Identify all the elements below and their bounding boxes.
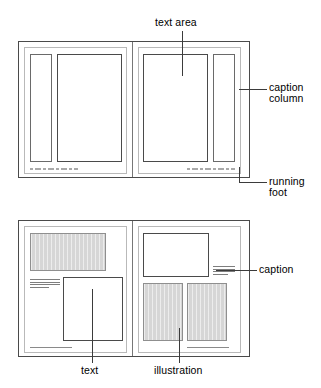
bottom-spread-gutter bbox=[132, 221, 133, 356]
bottom-left-caption bbox=[30, 279, 60, 289]
label-illustration: illustration bbox=[154, 365, 202, 377]
bottom-right-caption bbox=[213, 266, 235, 276]
label-text-area: text area bbox=[155, 17, 197, 29]
label-caption: caption bbox=[259, 264, 294, 276]
top-right-running-foot bbox=[187, 168, 235, 170]
top-spread-gutter bbox=[132, 42, 133, 177]
leader-caption bbox=[216, 270, 257, 271]
label-running-foot-line2: foot bbox=[269, 187, 287, 199]
bottom-left-illustration bbox=[30, 233, 106, 271]
bottom-left-running-foot bbox=[30, 347, 72, 348]
bottom-right-text-box bbox=[143, 233, 209, 277]
bottom-right-illustration-left bbox=[143, 283, 183, 341]
top-right-text-area bbox=[143, 54, 208, 162]
top-left-caption-column bbox=[30, 54, 52, 162]
bottom-right-illustration-right bbox=[187, 283, 227, 341]
illustration-texture bbox=[188, 284, 226, 340]
leader-text-area bbox=[182, 31, 183, 76]
leader-caption-column bbox=[239, 89, 267, 90]
top-right-caption-column bbox=[213, 54, 235, 162]
leader-running-foot-horizontal bbox=[239, 182, 267, 183]
top-spread bbox=[18, 41, 250, 178]
page-layout-diagram: text area caption column running foot bbox=[0, 0, 321, 388]
top-left-text-area bbox=[57, 54, 122, 162]
label-caption-column-line2: column bbox=[269, 93, 303, 105]
top-left-running-foot bbox=[30, 168, 78, 170]
illustration-texture bbox=[144, 284, 182, 340]
bottom-left-text-box bbox=[63, 277, 123, 341]
leader-running-foot-vertical bbox=[239, 167, 240, 182]
bottom-right-running-foot bbox=[187, 347, 229, 348]
leader-illustration bbox=[179, 328, 180, 363]
leader-text bbox=[92, 289, 93, 363]
label-text: text bbox=[81, 365, 98, 377]
illustration-texture bbox=[31, 234, 105, 270]
bottom-spread bbox=[18, 220, 250, 357]
